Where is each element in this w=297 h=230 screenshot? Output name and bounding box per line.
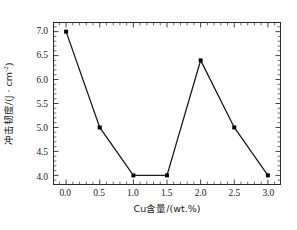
y-axis-title-prefix: 冲击韧度/(J · cm — [3, 71, 14, 144]
major-tick-marks — [54, 23, 280, 184]
y-tick-label-6: 6.5 — [36, 51, 48, 61]
x-tick-label-6: 2.5 — [229, 189, 241, 199]
y-axis-title: 冲击韧度/(J · cm-2) — [3, 62, 15, 144]
data-point — [98, 125, 102, 129]
data-line — [66, 32, 268, 176]
y-axis-title-suffix: ) — [3, 62, 14, 65]
plot-svg — [54, 23, 280, 184]
data-markers — [64, 30, 270, 178]
y-axis-title-exponent: -2 — [2, 66, 10, 72]
x-tick-label-1: 0.0 — [59, 189, 71, 199]
x-tick-label-2: 0.5 — [93, 189, 105, 199]
minor-tick-marks — [54, 23, 280, 184]
y-tick-label-4: 5.5 — [36, 100, 48, 110]
x-axis-title: Cu含量/(wt.%) — [53, 203, 281, 215]
y-tick-label-5: 6.0 — [36, 76, 48, 86]
x-tick-label-7: 3.0 — [263, 189, 275, 199]
y-tick-label-7: 7.0 — [36, 27, 48, 37]
data-point — [131, 173, 135, 177]
data-point — [165, 173, 169, 177]
x-tick-label-5: 2.0 — [195, 189, 207, 199]
data-point — [266, 173, 270, 177]
x-tick-label-3: 1.0 — [127, 189, 139, 199]
x-tick-label-4: 1.5 — [161, 189, 173, 199]
data-point — [232, 125, 236, 129]
y-tick-label-2: 4.5 — [36, 148, 48, 158]
chart-figure: 冲击韧度/(J · cm-2) 7.0 6.5 6.0 5.5 5.0 4.5 … — [0, 0, 297, 230]
y-axis-title-container: 冲击韧度/(J · cm-2) — [0, 22, 18, 185]
x-axis-title-text: Cu含量/(wt.%) — [134, 203, 201, 214]
y-tick-label-3: 5.0 — [36, 124, 48, 134]
y-tick-label-1: 4.0 — [36, 173, 48, 183]
data-point — [199, 58, 203, 62]
plot-area — [53, 22, 281, 185]
data-point — [64, 30, 68, 34]
